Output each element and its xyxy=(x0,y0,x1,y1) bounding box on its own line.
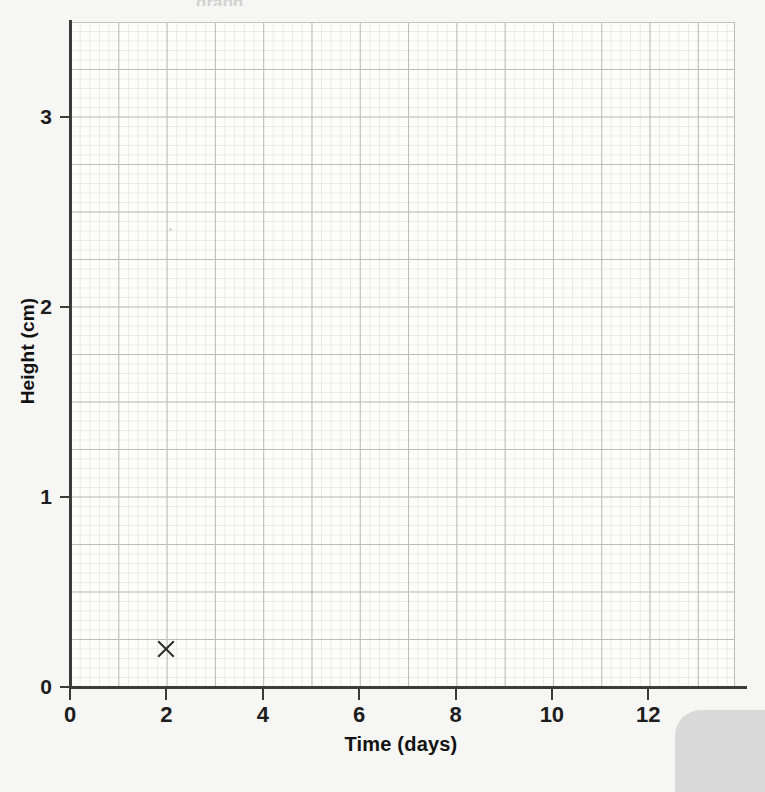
x-axis-line xyxy=(69,686,747,689)
x-tick-label: 12 xyxy=(618,702,678,728)
y-tick-label: 0 xyxy=(12,675,52,699)
x-tick-label: 2 xyxy=(136,702,196,728)
x-tick-label: 6 xyxy=(329,702,389,728)
grid-right-border xyxy=(734,22,735,687)
scan-speck-artifact xyxy=(169,228,172,231)
x-tick-mark xyxy=(455,689,457,700)
y-tick-mark xyxy=(60,306,70,308)
y-tick-mark xyxy=(60,496,70,498)
plot-area xyxy=(70,22,735,687)
x-tick-mark xyxy=(551,689,553,700)
x-axis-title: Time (days) xyxy=(0,733,747,756)
grid-top-border xyxy=(70,22,735,23)
x-tick-label: 4 xyxy=(233,702,293,728)
y-axis-title: Height (cm) xyxy=(17,251,39,451)
x-tick-label: 10 xyxy=(522,702,582,728)
cropped-heading-artifact: graph xyxy=(196,0,496,6)
y-tick-mark xyxy=(60,686,70,688)
y-tick-label: 3 xyxy=(12,105,52,129)
x-tick-mark xyxy=(262,689,264,700)
x-tick-label: 0 xyxy=(40,702,100,728)
x-tick-mark xyxy=(358,689,360,700)
page-corner-artifact xyxy=(675,710,765,792)
y-tick-mark xyxy=(60,116,70,118)
y-axis-line xyxy=(69,20,72,689)
x-tick-label: 8 xyxy=(426,702,486,728)
y-tick-label: 1 xyxy=(12,485,52,509)
major-gridlines xyxy=(70,22,735,687)
x-tick-mark xyxy=(165,689,167,700)
x-tick-mark xyxy=(647,689,649,700)
x-tick-mark xyxy=(69,689,71,700)
